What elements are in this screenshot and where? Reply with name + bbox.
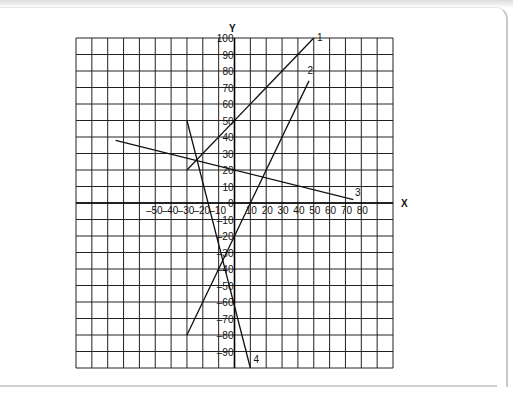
x-tick-label: 80 bbox=[357, 205, 369, 216]
x-tick-label: 20 bbox=[262, 205, 274, 216]
y-tick-label: –80 bbox=[217, 330, 234, 341]
y-tick-label: 10 bbox=[222, 182, 234, 193]
y-tick-label: –10 bbox=[217, 215, 234, 226]
y-tick-label: –50 bbox=[217, 281, 234, 292]
y-tick-label: 40 bbox=[222, 132, 234, 143]
y-tick-label: 90 bbox=[222, 50, 234, 61]
x-tick-label: 40 bbox=[293, 205, 305, 216]
y-tick-label: 70 bbox=[222, 83, 234, 94]
y-tick-label: 20 bbox=[222, 165, 234, 176]
y-tick-label: –60 bbox=[217, 297, 234, 308]
y-axis-label: Y bbox=[229, 23, 236, 34]
y-tick-label: –70 bbox=[217, 314, 234, 325]
x-tick-label: 60 bbox=[325, 205, 337, 216]
x-axis-label: X bbox=[401, 198, 408, 209]
line-label-4: 4 bbox=[254, 354, 260, 365]
y-tick-label: 80 bbox=[222, 66, 234, 77]
y-tick-label: 100 bbox=[217, 33, 234, 44]
x-tick-label: 30 bbox=[277, 205, 289, 216]
y-tick-label: 0 bbox=[228, 198, 234, 209]
line-label-1: 1 bbox=[317, 32, 323, 43]
x-tick-label: 70 bbox=[341, 205, 353, 216]
y-tick-label: 50 bbox=[222, 116, 234, 127]
x-tick-label: –50 bbox=[146, 205, 163, 216]
x-tick-label: 10 bbox=[246, 205, 258, 216]
x-tick-label: –20 bbox=[193, 205, 210, 216]
x-tick-label: –40 bbox=[162, 205, 179, 216]
y-tick-label: 30 bbox=[222, 149, 234, 160]
line-labels: 1234 bbox=[254, 32, 361, 365]
y-tick-label: –90 bbox=[217, 347, 234, 358]
line-label-3: 3 bbox=[355, 187, 361, 198]
x-tick-label: 50 bbox=[309, 205, 321, 216]
line-graph: –50–40–30–20–101020304050607080100908070… bbox=[0, 0, 513, 395]
line-label-2: 2 bbox=[307, 65, 313, 76]
y-tick-label: 60 bbox=[222, 99, 234, 110]
y-tick-label: –20 bbox=[217, 231, 234, 242]
x-tick-label: –30 bbox=[178, 205, 195, 216]
